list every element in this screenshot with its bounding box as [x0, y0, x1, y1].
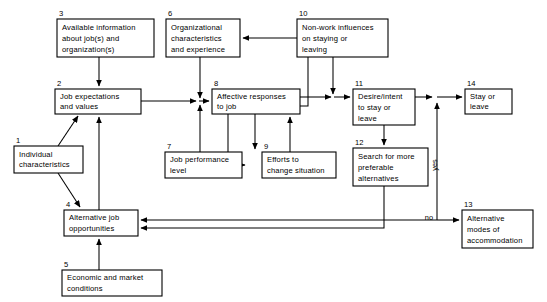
- node-6-number: 6: [168, 9, 172, 18]
- node-13-label-line2: modes of: [467, 225, 500, 234]
- node-3-label: Available information: [62, 23, 136, 32]
- edge-label-yes: yes: [430, 159, 439, 171]
- node-3-available-information[interactable]: 3 Available information about job(s) and…: [57, 9, 154, 57]
- node-14-number: 14: [467, 79, 475, 88]
- node-1-label: Individual: [19, 150, 53, 159]
- node-9-number: 9: [264, 142, 268, 151]
- node-12-number: 12: [355, 138, 363, 147]
- node-8-number: 8: [214, 79, 218, 88]
- node-13-label-line3: accommodation: [467, 236, 523, 245]
- node-4-number: 4: [66, 200, 70, 209]
- edge-1-to-2: [58, 116, 78, 146]
- node-5-label: Economic and market: [67, 273, 144, 282]
- node-2-label: Job expectations: [60, 92, 119, 101]
- node-6-organizational-characteristics[interactable]: 6 Organizational characteristics and exp…: [166, 9, 240, 57]
- node-7-label: Job performance: [170, 155, 229, 164]
- node-14-label-line2: leave: [470, 102, 489, 111]
- node-14-stay-or-leave[interactable]: 14 Stay or leave: [465, 79, 512, 114]
- node-1-label-line2: characteristics: [19, 160, 70, 169]
- node-7-number: 7: [167, 142, 171, 151]
- node-10-non-work-influences[interactable]: 10 Non-work influences on staying or lea…: [297, 9, 388, 57]
- node-9-label-line2: change situation: [267, 166, 325, 175]
- node-6-label-line3: and experience: [171, 45, 225, 54]
- edge-12-to-4: [141, 186, 384, 228]
- node-8-label-line2: to job: [217, 102, 236, 111]
- node-12-search-for-more-preferable-alternatives[interactable]: 12 Search for more preferable alternativ…: [353, 138, 428, 186]
- node-6-label-line2: characteristics: [171, 34, 222, 43]
- node-4-label-line2: opportunities: [69, 224, 114, 233]
- node-10-label-line2: on staying or: [302, 34, 348, 43]
- node-11-label: Desire/intent: [358, 92, 403, 101]
- node-11-number: 11: [355, 79, 363, 88]
- node-11-label-line3: leave: [358, 114, 377, 123]
- node-2-job-expectations-and-values[interactable]: 2 Job expectations and values: [55, 79, 141, 114]
- node-4-alternative-job-opportunities[interactable]: 4 Alternative job opportunities: [64, 200, 138, 236]
- node-2-label-line2: and values: [60, 102, 98, 111]
- node-1-number: 1: [16, 136, 20, 145]
- node-10-label-line3: leaving: [302, 45, 327, 54]
- node-8-affective-responses-to-job[interactable]: 8 Affective responses to job: [212, 79, 300, 114]
- node-12-label-line2: preferable: [358, 163, 394, 172]
- node-12-label-line3: alternatives: [358, 174, 399, 183]
- node-8-label: Affective responses: [217, 92, 286, 101]
- node-10-number: 10: [299, 9, 307, 18]
- node-10-label: Non-work influences: [302, 23, 374, 32]
- node-5-label-line2: conditions: [67, 284, 103, 293]
- node-4-label: Alternative job: [69, 213, 119, 222]
- node-7-job-performance-level[interactable]: 7 Job performance level: [165, 142, 242, 178]
- node-13-number: 13: [464, 200, 472, 209]
- node-5-economic-and-market-conditions[interactable]: 5 Economic and market conditions: [62, 260, 162, 296]
- node-13-alternative-modes-of-accommodation[interactable]: 13 Alternative modes of accommodation: [462, 200, 533, 248]
- node-14-label: Stay or: [470, 92, 495, 101]
- node-11-desire-intent-to-stay-or-leave[interactable]: 11 Desire/intent to stay or leave: [353, 79, 415, 125]
- node-3-number: 3: [59, 9, 63, 18]
- node-13-label: Alternative: [467, 214, 505, 223]
- node-3-label-line3: organization(s): [62, 45, 115, 54]
- node-12-label: Search for more: [358, 152, 415, 161]
- flowchart-diagram: 1 Individual characteristics 2 Job expec…: [0, 0, 547, 302]
- node-3-label-line2: about job(s) and: [62, 34, 119, 43]
- node-9-efforts-to-change-situation[interactable]: 9 Efforts to change situation: [262, 142, 336, 178]
- flowchart-canvas: 1 Individual characteristics 2 Job expec…: [0, 0, 547, 302]
- node-11-label-line2: to stay or: [358, 103, 391, 112]
- node-2-number: 2: [57, 79, 61, 88]
- node-5-number: 5: [64, 260, 68, 269]
- edge-label-no: no: [425, 213, 433, 222]
- node-1-individual-characteristics[interactable]: 1 Individual characteristics: [14, 136, 83, 173]
- node-9-label: Efforts to: [267, 155, 299, 164]
- node-6-label: Organizational: [171, 23, 222, 32]
- node-7-label-line2: level: [170, 166, 187, 175]
